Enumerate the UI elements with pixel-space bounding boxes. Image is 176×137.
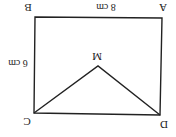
dimension-label-ab: 8 cm xyxy=(96,2,116,13)
dimension-label-bc: 6 cm xyxy=(8,58,28,69)
triangle-cmd xyxy=(34,66,160,115)
vertex-label-c: C xyxy=(23,116,30,128)
point-label-m: M xyxy=(92,51,102,63)
vertex-label-b: B xyxy=(24,2,31,14)
vertex-label-d: D xyxy=(160,119,168,131)
geometry-diagram: A B C D M 8 cm 6 cm xyxy=(0,0,176,137)
vertex-label-a: A xyxy=(159,2,167,14)
